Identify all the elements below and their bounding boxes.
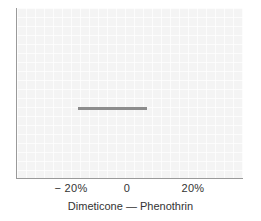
x-axis-spine: [16, 178, 243, 179]
x-tick-label-plus-20: 20%: [182, 182, 205, 194]
plot-area: [17, 8, 243, 178]
x-tick-label-minus-20: − 20%: [55, 182, 88, 194]
x-axis-title: Dimeticone — Phenothrin: [0, 200, 261, 212]
y-axis-spine: [16, 8, 17, 179]
x-tick-label-zero: 0: [124, 182, 130, 194]
chart-figure: − 20% 0 20% Dimeticone — Phenothrin: [0, 0, 261, 221]
confidence-interval-bar: [78, 107, 147, 110]
